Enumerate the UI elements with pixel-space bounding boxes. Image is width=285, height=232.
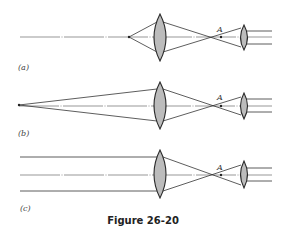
- figure-caption: Figure 26-20: [107, 215, 179, 226]
- panel-label: (b): [18, 129, 29, 138]
- focal-label: A: [216, 93, 223, 102]
- focal-point-a: [220, 174, 222, 176]
- focal-point-a: [220, 36, 222, 38]
- panel-a: A (a): [18, 14, 272, 72]
- focal-point-a: [220, 105, 222, 107]
- point-source: [18, 104, 20, 106]
- ray: [163, 157, 241, 185]
- ray: [19, 89, 157, 105]
- focal-label: A: [216, 163, 223, 172]
- objective-lens: [154, 14, 166, 61]
- ray: [163, 22, 241, 47]
- ray: [163, 97, 241, 121]
- panel-c: A (c): [20, 150, 272, 213]
- panel-label: (a): [18, 63, 29, 72]
- panel-b: A (b): [18, 82, 272, 138]
- panel-label: (c): [20, 204, 31, 213]
- optics-figure: A (a) A (b) A (c) Figure 26-20: [0, 0, 285, 232]
- eyepiece-lens: [241, 93, 248, 119]
- ray: [163, 165, 241, 191]
- eyepiece-lens: [241, 161, 248, 188]
- focal-label: A: [216, 25, 223, 34]
- ray: [129, 37, 157, 52]
- eyepiece-lens: [241, 25, 248, 50]
- ray: [163, 89, 241, 115]
- point-source: [128, 36, 130, 38]
- ray: [163, 28, 241, 52]
- ray: [129, 22, 157, 37]
- ray: [19, 105, 157, 121]
